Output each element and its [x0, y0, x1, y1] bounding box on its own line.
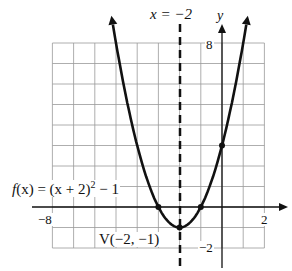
parabola-graph: x = −2 y 8 −2 −8 2 f(x) = (x + 2)2 − 1 V… — [0, 0, 292, 271]
y-axis-label: y — [217, 9, 223, 23]
data-point — [155, 204, 161, 210]
data-point — [198, 204, 204, 210]
axis-of-symmetry-label: x = −2 — [149, 7, 193, 22]
function-label: f(x) = (x + 2)2 − 1 — [11, 180, 120, 197]
grid — [52, 43, 264, 248]
data-point — [219, 143, 225, 149]
x-tick-neg8: −8 — [37, 213, 53, 226]
curve-arrow-right — [242, 16, 251, 26]
vertex-label: V(−2, −1) — [98, 232, 160, 247]
x-tick-2: 2 — [260, 213, 269, 226]
y-tick-8: 8 — [205, 38, 214, 51]
curve-arrow-left — [109, 16, 118, 26]
y-tick-neg2: −2 — [198, 241, 214, 254]
data-point — [177, 225, 183, 231]
